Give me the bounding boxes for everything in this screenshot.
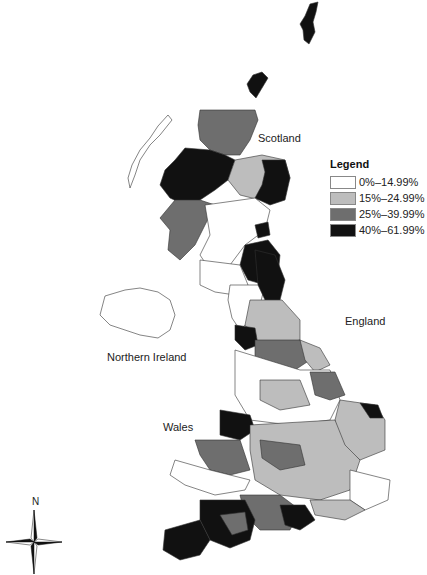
shetland bbox=[300, 2, 318, 44]
label-england: England bbox=[345, 315, 385, 327]
legend-item: 15%–24.99% bbox=[330, 190, 424, 206]
legend-swatch-15-25 bbox=[330, 192, 356, 205]
north-arrow: N bbox=[4, 496, 62, 574]
legend-item: 0%–14.99% bbox=[330, 174, 424, 190]
legend-label: 40%–61.99% bbox=[359, 224, 424, 236]
legend-title: Legend bbox=[330, 158, 424, 170]
label-northern-ireland: Northern Ireland bbox=[107, 351, 187, 363]
legend: Legend 0%–14.99% 15%–24.99% 25%–39.99% 4… bbox=[330, 158, 424, 238]
uk-choropleth-map bbox=[0, 0, 427, 575]
orkney bbox=[247, 72, 268, 98]
lancashire bbox=[235, 325, 258, 350]
label-wales: Wales bbox=[163, 421, 193, 433]
legend-swatch-40-62 bbox=[330, 224, 356, 237]
fife bbox=[255, 222, 270, 238]
legend-item: 40%–61.99% bbox=[330, 222, 424, 238]
compass-rose-icon bbox=[4, 508, 62, 575]
label-scotland: Scotland bbox=[258, 132, 301, 144]
highland-north bbox=[198, 110, 258, 155]
legend-label: 25%–39.99% bbox=[359, 208, 424, 220]
humber bbox=[300, 340, 330, 372]
cornwall bbox=[163, 520, 210, 560]
northern-ireland bbox=[100, 288, 175, 338]
legend-swatch-25-40 bbox=[330, 208, 356, 221]
legend-label: 15%–24.99% bbox=[359, 192, 424, 204]
legend-label: 0%–14.99% bbox=[359, 176, 418, 188]
legend-swatch-0-15 bbox=[330, 176, 356, 189]
highland-west bbox=[160, 148, 235, 205]
north-label: N bbox=[32, 496, 39, 507]
legend-item: 25%–39.99% bbox=[330, 206, 424, 222]
